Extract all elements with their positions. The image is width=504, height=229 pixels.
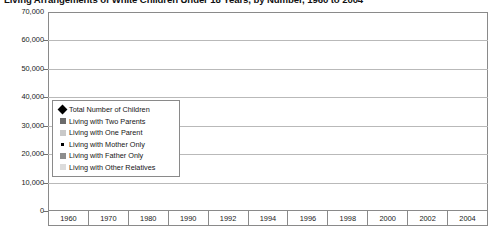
- x-tick-label: 1994: [249, 211, 289, 225]
- y-tick-label: 0: [0, 207, 44, 215]
- y-tick-label: 20,000: [0, 150, 44, 158]
- chart-legend: Total Number of ChildrenLiving with Two …: [52, 100, 180, 177]
- small-square-marker-icon: [56, 143, 69, 146]
- y-tick-mark: [43, 183, 48, 184]
- legend-item[interactable]: Living with Mother Only: [56, 139, 175, 151]
- x-tick-label: 1960: [49, 211, 89, 225]
- legend-item-label: Living with Two Parents: [69, 117, 146, 126]
- y-tick-label: 40,000: [0, 93, 44, 101]
- x-axis: 1960197019801990199219941996199820002002…: [48, 211, 488, 226]
- legend-item[interactable]: Living with Two Parents: [56, 116, 175, 128]
- y-tick-mark: [43, 97, 48, 98]
- x-tick-label: 1980: [129, 211, 169, 225]
- legend-item-label: Total Number of Children: [69, 105, 150, 114]
- x-tick-label: 1998: [328, 211, 368, 225]
- page-title: Living Arrangements of White Children Un…: [4, 0, 504, 6]
- gridline: [48, 69, 488, 70]
- x-tick-label: 1992: [209, 211, 249, 225]
- legend-item[interactable]: Living with Father Only: [56, 150, 175, 162]
- y-tick-label: 30,000: [0, 122, 44, 130]
- gridline: [48, 183, 488, 184]
- x-tick-label: 2002: [408, 211, 448, 225]
- y-tick-label: 70,000: [0, 8, 44, 16]
- y-tick-label: 60,000: [0, 36, 44, 44]
- legend-item[interactable]: Total Number of Children: [56, 104, 175, 116]
- y-tick-mark: [43, 154, 48, 155]
- legend-item-label: Living with Mother Only: [69, 140, 145, 149]
- chart-container: Living Arrangements of White Children Un…: [0, 0, 504, 229]
- x-tick-label: 2004: [448, 211, 487, 225]
- legend-item-label: Living with Other Relatives: [69, 163, 155, 172]
- square-marker-icon: [56, 130, 69, 136]
- legend-item-label: Living with Father Only: [69, 151, 143, 160]
- y-tick-mark: [43, 40, 48, 41]
- x-tick-label: 1996: [288, 211, 328, 225]
- gridline: [48, 40, 488, 41]
- legend-item-label: Living with One Parent: [69, 128, 142, 137]
- x-tick-label: 1990: [169, 211, 209, 225]
- y-tick-label: 50,000: [0, 65, 44, 73]
- square-marker-icon: [56, 164, 69, 170]
- square-marker-icon: [56, 153, 69, 159]
- y-tick-mark: [43, 126, 48, 127]
- y-tick-mark: [43, 69, 48, 70]
- diamond-marker-icon: [56, 106, 69, 113]
- x-tick-label: 2000: [368, 211, 408, 225]
- legend-item[interactable]: Living with Other Relatives: [56, 162, 175, 174]
- gridline: [48, 97, 488, 98]
- square-marker-icon: [56, 118, 69, 124]
- y-tick-label: 10,000: [0, 179, 44, 187]
- legend-item[interactable]: Living with One Parent: [56, 127, 175, 139]
- x-tick-label: 1970: [89, 211, 129, 225]
